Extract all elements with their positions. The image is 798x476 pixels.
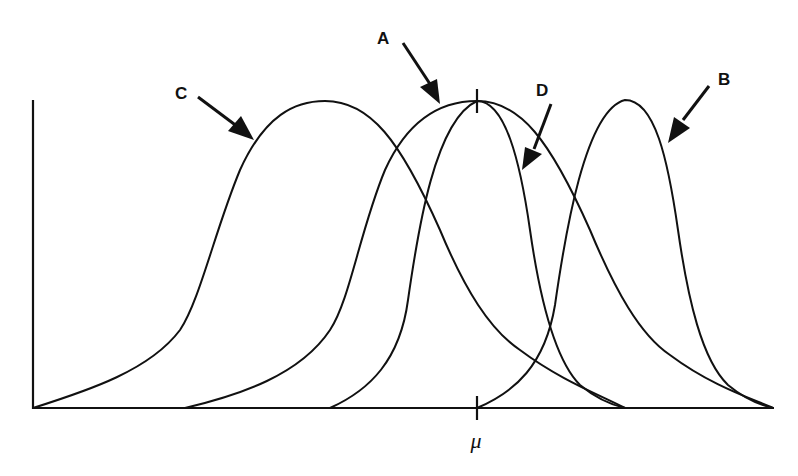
label-b-group: B — [668, 70, 730, 143]
arrow-c-head — [228, 116, 254, 140]
curve-d — [330, 101, 625, 408]
arrow-a-head — [420, 79, 440, 104]
arrow-d-head — [522, 147, 542, 170]
label-a: A — [377, 29, 389, 48]
curve-a — [185, 101, 773, 408]
arrow-c-shaft — [198, 97, 238, 127]
distribution-diagram: A C D B μ — [0, 0, 798, 476]
arrow-a-shaft — [403, 43, 430, 84]
label-d: D — [536, 81, 548, 100]
label-c: C — [175, 84, 187, 103]
label-d-group: D — [522, 81, 551, 170]
label-a-group: A — [377, 29, 440, 104]
label-b: B — [718, 70, 730, 89]
arrow-b-shaft — [683, 86, 709, 120]
mu-label: μ — [469, 428, 481, 453]
arrow-b-head — [668, 117, 690, 143]
label-c-group: C — [175, 84, 254, 140]
curve-b — [477, 100, 773, 408]
